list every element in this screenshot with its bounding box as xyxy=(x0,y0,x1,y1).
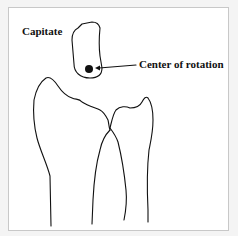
capitate-label: Capitate xyxy=(22,25,62,37)
center-of-rotation-dot xyxy=(85,65,93,73)
center-bone-right xyxy=(110,128,126,220)
center-of-rotation-label: Center of rotation xyxy=(139,58,224,70)
arrowhead xyxy=(95,66,100,71)
center-bone-left xyxy=(92,130,110,224)
right-bone-outline xyxy=(110,97,153,222)
pointer-line xyxy=(99,65,136,68)
left-bone-outline xyxy=(34,77,110,226)
